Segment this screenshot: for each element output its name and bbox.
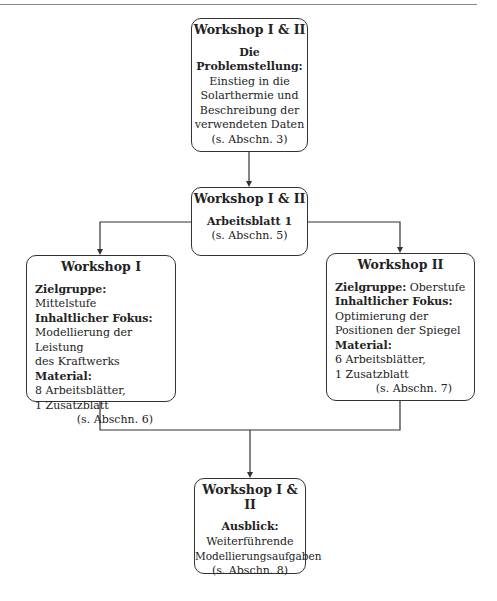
box-workshop-1: Workshop I Zielgruppe: Mittelstufe Inhal… bbox=[26, 255, 176, 402]
box-text: Einstieg in die bbox=[192, 75, 307, 90]
box-worksheet-1: Workshop I & II Arbeitsblatt 1 (s. Absch… bbox=[191, 187, 308, 256]
target-group-row: Zielgruppe: Mittelstufe bbox=[35, 283, 167, 312]
box-heading: Die bbox=[192, 46, 307, 61]
focus-text: Modellierung der Leistung bbox=[35, 326, 167, 355]
material-text: 1 Zusatzblatt bbox=[35, 399, 167, 414]
box-title: Workshop I & II bbox=[195, 483, 305, 512]
box-outlook: Workshop I & II Ausblick: Weiterführende… bbox=[194, 478, 306, 574]
box-text: Weiterführende bbox=[195, 535, 305, 550]
box-text: Modellierungsaufgaben bbox=[195, 549, 305, 564]
focus-text: des Kraftwerks bbox=[35, 355, 167, 370]
box-title: Workshop I & II bbox=[192, 192, 307, 207]
box-title: Workshop I bbox=[27, 260, 175, 275]
material-label: Material: bbox=[35, 370, 167, 385]
target-group-value: Mittelstufe bbox=[35, 297, 96, 310]
section-ref: (s. Abschn. 7) bbox=[327, 382, 474, 397]
box-text: Beschreibung der bbox=[192, 104, 307, 119]
box-text: Solarthermie und bbox=[192, 89, 307, 104]
material-text: 1 Zusatzblatt bbox=[335, 368, 466, 383]
material-label: Material: bbox=[335, 339, 466, 354]
box-title: Workshop I & II bbox=[192, 23, 307, 38]
target-group-row: Zielgruppe: Oberstufe bbox=[335, 281, 466, 296]
box-problem-statement: Workshop I & II Die Problemstellung: Ein… bbox=[191, 18, 308, 152]
focus-label: Inhaltlicher Fokus: bbox=[35, 312, 167, 327]
target-group-label: Zielgruppe: bbox=[35, 283, 106, 296]
focus-label: Inhaltlicher Fokus: bbox=[335, 295, 466, 310]
box-workshop-2: Workshop II Zielgruppe: Oberstufe Inhalt… bbox=[326, 253, 475, 401]
section-ref: (s. Abschn. 3) bbox=[192, 133, 307, 148]
material-text: 6 Arbeitsblätter, bbox=[335, 353, 466, 368]
box-text: verwendeten Daten bbox=[192, 118, 307, 133]
target-group-value: Oberstufe bbox=[410, 281, 466, 294]
box-heading: Arbeitsblatt 1 bbox=[192, 215, 307, 230]
material-text: 8 Arbeitsblätter, bbox=[35, 384, 167, 399]
focus-text: Positionen der Spiegel bbox=[335, 324, 466, 339]
box-title: Workshop II bbox=[327, 258, 474, 273]
section-ref: (s. Abschn. 5) bbox=[192, 229, 307, 244]
box-heading: Problemstellung: bbox=[192, 60, 307, 75]
target-group-label: Zielgruppe: bbox=[335, 281, 406, 294]
section-ref: (s. Abschn. 6) bbox=[27, 413, 175, 428]
focus-text: Optimierung der bbox=[335, 310, 466, 325]
box-heading: Ausblick: bbox=[195, 520, 305, 535]
section-ref: (s. Abschn. 8) bbox=[195, 564, 305, 579]
